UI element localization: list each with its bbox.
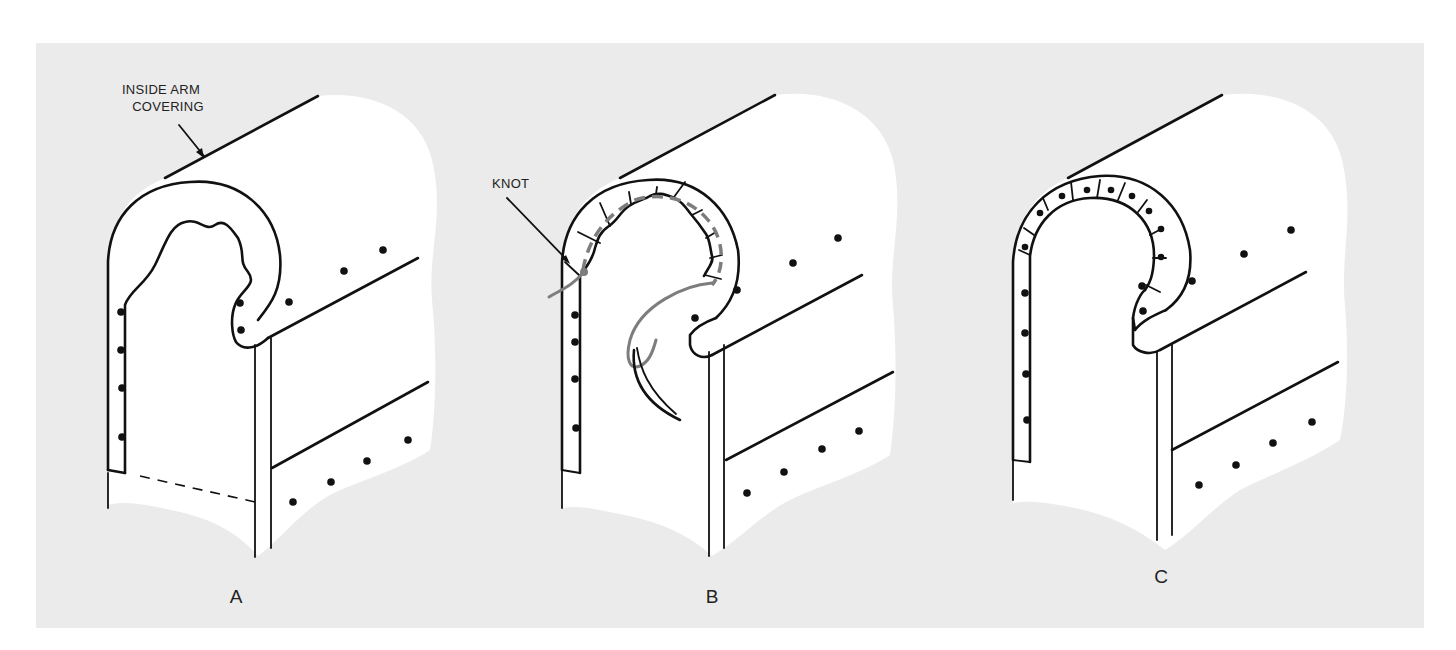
panel-label-c: C xyxy=(1154,566,1168,587)
callout-arrow-icon xyxy=(507,198,567,260)
callout-line-2: COVERING xyxy=(132,99,204,114)
knot-icon xyxy=(580,268,588,276)
panel-label-b: B xyxy=(706,586,719,607)
panel-a-illustration xyxy=(108,95,437,557)
panel-c-illustration xyxy=(1013,94,1347,550)
arm-covering-figure: INSIDE ARM COVERING A xyxy=(0,0,1456,650)
callout-line-1: KNOT xyxy=(492,176,529,191)
arrowhead-icon xyxy=(196,148,204,158)
panel-label-a: A xyxy=(230,586,243,607)
panel-b-illustration xyxy=(549,94,897,556)
callout-knot: KNOT xyxy=(492,176,570,264)
callout-line-1: INSIDE ARM xyxy=(122,82,200,97)
callout-inside-arm-covering: INSIDE ARM COVERING xyxy=(122,82,204,158)
